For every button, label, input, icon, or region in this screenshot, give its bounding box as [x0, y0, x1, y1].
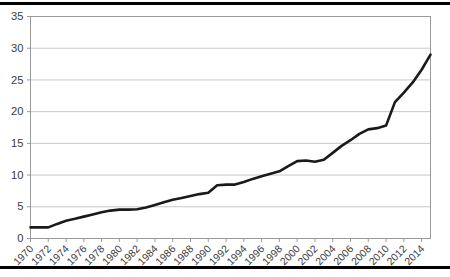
- y-tick-label: 5: [17, 200, 23, 212]
- chart-canvas: 05101520253035 1970197219741976197819801…: [0, 0, 450, 277]
- y-tick-label: 30: [11, 42, 23, 54]
- y-tick-label: 35: [11, 10, 23, 22]
- x-axis-ticks: [31, 239, 422, 243]
- y-tick-label: 0: [17, 232, 23, 244]
- y-axis-tick-labels: 05101520253035: [11, 10, 23, 244]
- plot-frame: [31, 17, 431, 239]
- series-line-series-1: [31, 55, 431, 228]
- y-tick-label: 20: [11, 105, 23, 117]
- line-chart: 05101520253035 1970197219741976197819801…: [0, 0, 450, 277]
- y-axis-ticks: [27, 17, 31, 239]
- y-tick-label: 25: [11, 74, 23, 86]
- y-tick-label: 15: [11, 137, 23, 149]
- y-tick-label: 10: [11, 169, 23, 181]
- data-series-line: [31, 55, 431, 228]
- chart-figure: 05101520253035 1970197219741976197819801…: [0, 0, 450, 277]
- plot-area-border: [31, 17, 431, 239]
- x-axis-tick-labels: 1970197219741976197819801982198419861988…: [11, 243, 426, 267]
- gridlines: [31, 48, 431, 207]
- x-tick-label: 2014: [402, 243, 426, 267]
